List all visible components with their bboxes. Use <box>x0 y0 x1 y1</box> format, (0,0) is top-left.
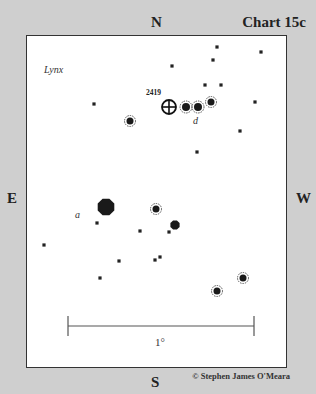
star <box>238 129 241 132</box>
star <box>182 103 190 111</box>
star <box>138 229 141 232</box>
star <box>170 64 173 67</box>
star <box>42 243 45 246</box>
star <box>215 45 218 48</box>
star <box>194 103 202 111</box>
star-label-d: d <box>193 115 199 126</box>
object-label: 2419 <box>146 88 161 97</box>
star <box>127 118 134 125</box>
star <box>153 206 160 213</box>
star <box>117 259 120 262</box>
star <box>167 230 170 233</box>
star <box>214 288 221 295</box>
star <box>253 100 256 103</box>
stars: a <box>42 45 262 296</box>
star <box>208 99 215 106</box>
star <box>92 102 95 105</box>
star-map: Lynx 2419 d a 1° <box>0 0 316 394</box>
star <box>95 221 98 224</box>
star <box>259 50 262 53</box>
star <box>98 276 101 279</box>
star <box>153 258 156 261</box>
bright-star <box>98 199 115 216</box>
star-label-a: a <box>75 209 80 220</box>
star <box>219 83 222 86</box>
star <box>195 150 198 153</box>
scale-bar <box>68 316 254 336</box>
star <box>158 255 161 258</box>
star <box>203 83 206 86</box>
star <box>240 275 247 282</box>
constellation-label: Lynx <box>43 64 64 75</box>
bright-star <box>170 220 179 229</box>
star <box>211 58 214 61</box>
scale-label: 1° <box>155 336 165 348</box>
